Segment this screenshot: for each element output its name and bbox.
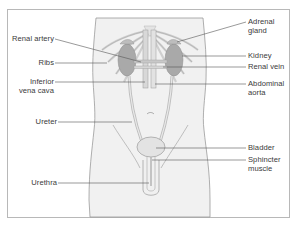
label-abdominal-aorta: Abdominal aorta <box>248 79 284 97</box>
label-adrenal-gland: Adrenal gland <box>248 17 275 35</box>
label-renal-vein: Renal vein <box>248 62 284 71</box>
label-ribs: Ribs <box>39 58 54 67</box>
label-sphincter-muscle: Sphincter muscle <box>248 155 281 173</box>
bladder <box>137 137 165 157</box>
label-kidney: Kidney <box>248 51 272 60</box>
label-inferior-vena-cava: Inferior vena cava <box>19 77 54 95</box>
aorta <box>151 30 156 88</box>
label-renal-artery: Renal artery <box>12 34 54 43</box>
label-bladder: Bladder <box>248 143 275 152</box>
right-kidney <box>165 44 183 76</box>
vena-cava <box>143 30 148 88</box>
label-ureter: Ureter <box>36 117 57 126</box>
label-urethra: Urethra <box>31 178 57 187</box>
